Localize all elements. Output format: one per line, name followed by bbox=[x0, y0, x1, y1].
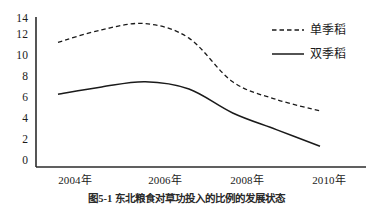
y-tick-label-14: 14 bbox=[2, 13, 28, 25]
y-tick-label-12: 12 bbox=[2, 29, 28, 41]
y-tick-label-6: 6 bbox=[2, 92, 28, 104]
y-tick-label-10: 10 bbox=[2, 50, 28, 62]
y-tick-label-2: 2 bbox=[2, 134, 28, 146]
series-line-single-season bbox=[58, 23, 320, 111]
x-tick-label-2010: 2010年 bbox=[297, 175, 361, 187]
series-line-double-season bbox=[58, 82, 320, 146]
legend-label-single-season: 单季稻 bbox=[310, 24, 346, 36]
figure-caption: 图5-1 东北粮食对草功投入的比例的发展状态 bbox=[0, 193, 373, 204]
x-tick-label-2008: 2008年 bbox=[215, 175, 279, 187]
x-tick-label-2006: 2006年 bbox=[133, 175, 197, 187]
y-tick-label-0: 0 bbox=[2, 155, 28, 167]
y-tick-label-4: 4 bbox=[2, 113, 28, 125]
legend-label-double-season: 双季稻 bbox=[310, 48, 346, 60]
x-tick-label-2004: 2004年 bbox=[43, 175, 107, 187]
y-tick-label-8: 8 bbox=[2, 71, 28, 83]
figure-container: 0 2 4 6 8 10 12 14 2004年 2006年 2008年 201… bbox=[0, 0, 373, 204]
